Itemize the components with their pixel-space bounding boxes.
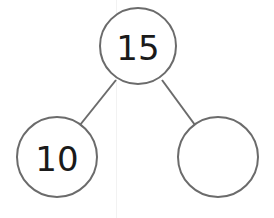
number-bond-diagram: 15 10 (0, 0, 274, 218)
part-node-right[interactable] (178, 117, 258, 197)
part-value-left: 10 (35, 139, 78, 179)
connector-left (80, 80, 116, 125)
part-node-left: 10 (17, 117, 97, 197)
connector-right (162, 80, 195, 125)
whole-value: 15 (116, 28, 159, 68)
whole-node: 15 (100, 8, 176, 84)
part-circle-right-blank[interactable] (178, 117, 258, 197)
